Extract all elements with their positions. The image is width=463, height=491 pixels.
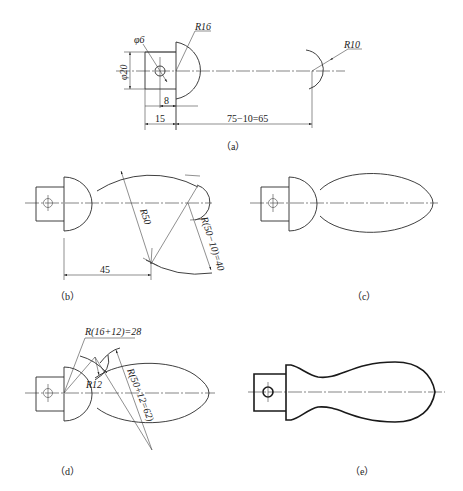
panel-e: （e） [248, 362, 445, 477]
r16-dome-arc [176, 42, 200, 99]
r10-leader [330, 49, 348, 60]
caption-a: （a） [221, 141, 245, 152]
square-stub [36, 187, 64, 221]
caption-e: （e） [350, 466, 374, 477]
r62-label: R(50+12=62) [124, 366, 157, 424]
r10-end-arc [195, 185, 210, 220]
r28-label: R(16+12)=28 [84, 326, 141, 338]
r40-label: R(50−10)=40 [198, 214, 227, 272]
handle-drawing-steps: φ6 R16 φ20 8 15 75−10=65 R10 （a） [0, 0, 463, 491]
r50-upper-arc [97, 175, 198, 191]
phi6-label: φ6 [134, 34, 145, 45]
caption-d: （d） [55, 466, 80, 477]
caption-c: （c） [352, 291, 376, 302]
panel-d: R(16+12)=28 R12 R(50+12=62) （d） [25, 326, 215, 477]
phi20-label: φ20 [118, 64, 129, 80]
dome-arc [64, 177, 92, 231]
d15-label: 15 [155, 113, 165, 124]
d65-label: 75−10=65 [227, 113, 268, 124]
panel-b: 45 R50 R(50−10)=40 （b） [25, 171, 227, 302]
lower-arc [146, 260, 212, 274]
r50-label: R50 [138, 206, 154, 226]
r12-label: R12 [85, 379, 102, 390]
square-stub [36, 377, 64, 411]
dome-arc [64, 367, 92, 421]
r10-label: R10 [343, 39, 360, 50]
d45-label: 45 [100, 264, 110, 275]
square-stub [145, 52, 176, 89]
panel-a: φ6 R16 φ20 8 15 75−10=65 R10 （a） [116, 21, 362, 152]
square-stub [261, 187, 289, 221]
dome-arc [289, 177, 317, 231]
phi6-leader [143, 44, 167, 82]
d8-label: 8 [164, 95, 169, 106]
panel-c: （c） [250, 174, 438, 302]
square-stub [254, 374, 286, 411]
r16-label: R16 [194, 21, 211, 32]
caption-b: （b） [55, 291, 80, 302]
